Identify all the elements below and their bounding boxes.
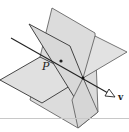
point-p-dot xyxy=(59,59,62,62)
center-dot xyxy=(82,77,85,80)
planes-diagram: P v xyxy=(0,0,129,132)
label-v: v xyxy=(117,92,124,102)
vector-arrowhead-icon xyxy=(105,89,115,97)
label-p: P xyxy=(41,60,50,73)
bottom-divider xyxy=(0,118,129,119)
